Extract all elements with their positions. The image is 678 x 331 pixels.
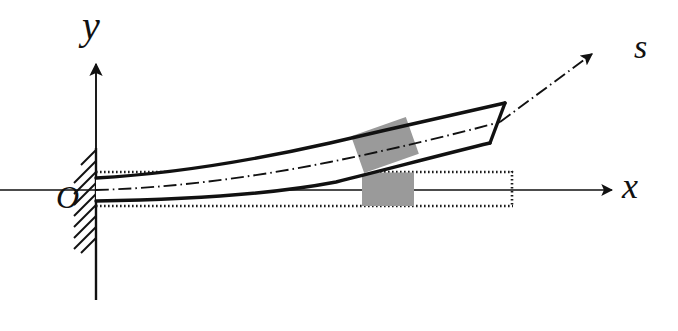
arrow-diagonal-up-right-icon — [500, 54, 592, 122]
undeformed-beam-element — [362, 173, 414, 207]
fixed-support-hatch-icon — [74, 148, 96, 300]
cantilever-beam-figure: y x s O — [0, 0, 678, 331]
origin-label: O — [56, 181, 79, 213]
arc-length-axis-group — [500, 54, 592, 122]
y-axis-label: y — [82, 6, 100, 46]
x-axis-label: x — [622, 168, 638, 204]
arc-length-axis-label: s — [634, 30, 647, 64]
diagram-canvas — [0, 0, 678, 331]
